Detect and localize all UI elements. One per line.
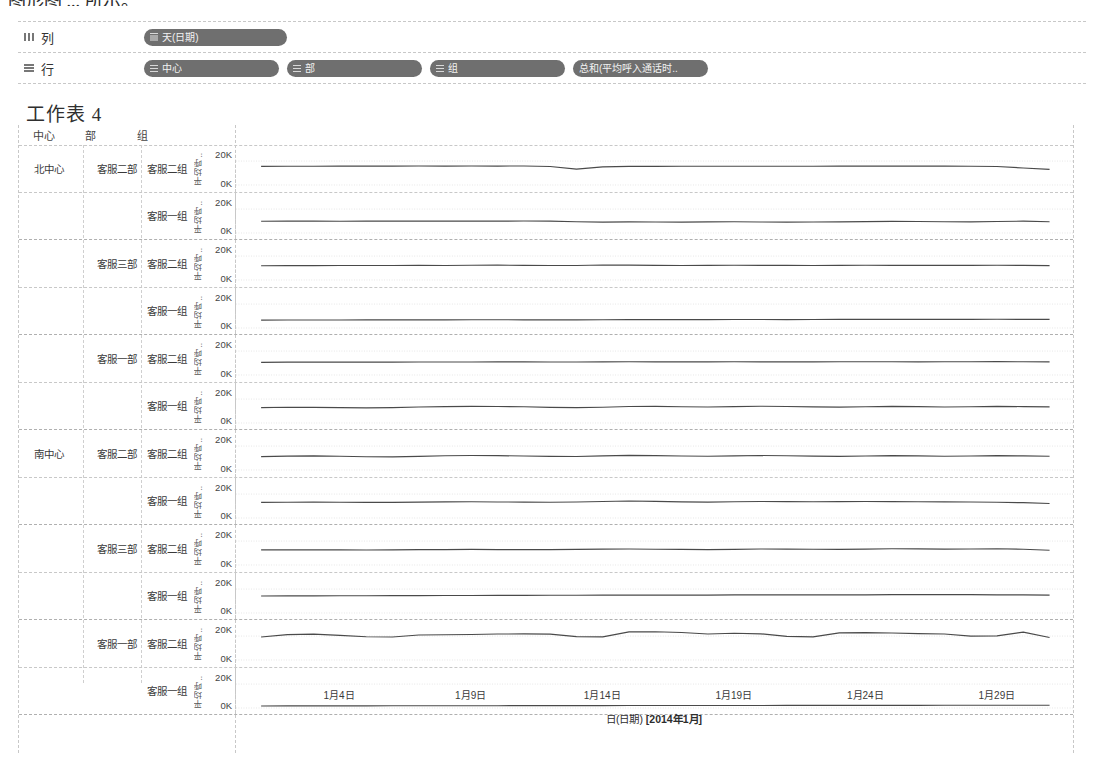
panel-dept-label: 客服一部 <box>83 335 141 382</box>
y-tick-label: 0K <box>220 368 232 379</box>
header-group: 组 <box>137 127 148 143</box>
panel-grid: 北中心客服二部客服二组平均呼..20K0K客服一组平均呼..20K0K客服三部客… <box>19 145 1073 715</box>
panel-dept-label <box>83 193 141 240</box>
y-tick-label: 0K <box>220 558 232 569</box>
panel-center-label: 北中心 <box>19 145 83 192</box>
panel-plot[interactable] <box>235 145 1073 192</box>
pill-measure-avg-call-duration[interactable]: 总和(平均呼入通话时.. <box>573 60 708 77</box>
panel-group-label: 客服一组 <box>141 573 191 620</box>
panel-group-label: 客服二组 <box>141 620 191 667</box>
panel-plot[interactable] <box>235 525 1073 572</box>
panel-center-label <box>19 620 83 667</box>
y-tick-label: 20K <box>215 672 232 683</box>
pill-group[interactable]: 组 <box>430 60 565 77</box>
y-tick-label: 0K <box>220 653 232 664</box>
panel-plot[interactable] <box>235 620 1073 667</box>
pill-center[interactable]: 中心 <box>144 60 279 77</box>
columns-shelf-label: 列 <box>18 28 144 47</box>
panel-dept-label: 客服三部 <box>83 525 141 572</box>
panel-dept-label: 客服一部 <box>83 620 141 667</box>
y-axis-title: 平均呼.. <box>192 288 206 335</box>
panel-row: 客服三部客服二组平均呼..20K0K <box>19 240 1073 288</box>
panel-row: 北中心客服二部客服二组平均呼..20K0K <box>19 145 1073 193</box>
panel-group-label: 客服二组 <box>141 240 191 287</box>
panel-y-axis: 平均呼..20K0K <box>191 573 235 620</box>
page-title: 工作表 4 <box>26 99 102 126</box>
panel-row: 南中心客服二部客服二组平均呼..20K0K <box>19 430 1073 478</box>
panel-row: 客服一组平均呼..20K0K <box>19 478 1073 526</box>
panel-y-axis: 平均呼..20K0K <box>191 430 235 477</box>
panel-center-label <box>19 573 83 620</box>
panel-plot[interactable] <box>235 573 1073 620</box>
panel-group-label: 客服二组 <box>141 525 191 572</box>
panel-dept-label <box>83 383 141 430</box>
dimension-icon <box>436 64 444 72</box>
pill-label: 组 <box>448 60 458 77</box>
panel-dept-label <box>83 573 141 620</box>
panel-dept-label: 客服二部 <box>83 145 141 192</box>
columns-grid-icon <box>24 32 35 42</box>
calendar-icon <box>150 33 158 41</box>
x-tick-label: 1月4日 <box>324 687 355 702</box>
y-axis-title: 平均呼.. <box>192 193 206 240</box>
panel-group-label: 客服二组 <box>141 335 191 382</box>
rows-grid-icon <box>24 63 35 73</box>
panel-y-axis: 平均呼..20K0K <box>191 193 235 240</box>
y-tick-label: 20K <box>215 197 232 208</box>
y-axis-title: 平均呼.. <box>192 240 206 287</box>
pill-dept[interactable]: 部 <box>287 60 422 77</box>
x-axis-title-main: 日(日期) <box>606 713 646 725</box>
panel-plot[interactable] <box>235 288 1073 335</box>
rows-shelf[interactable]: 行 中心 部 组 总和(平均呼入通话时.. <box>18 52 1086 84</box>
y-tick-label: 0K <box>220 178 232 189</box>
x-tick-label: 1月29日 <box>979 687 1016 702</box>
row-header-captions: 中心 部 组 <box>19 125 1073 146</box>
panel-group-label: 客服一组 <box>141 383 191 430</box>
columns-shelf[interactable]: 列 天(日期) <box>18 21 1086 53</box>
pill-label: 中心 <box>162 60 182 77</box>
y-tick-label: 20K <box>215 577 232 588</box>
panel-center-label <box>19 525 83 572</box>
panel-row: 客服三部客服二组平均呼..20K0K <box>19 525 1073 573</box>
panel-plot[interactable] <box>235 240 1073 287</box>
panel-row: 客服一组平均呼..20K0K <box>19 573 1073 621</box>
panel-group-label: 客服一组 <box>141 478 191 525</box>
panel-y-axis: 平均呼..20K0K <box>191 383 235 430</box>
cut-off-top-text: 图形图 ... 所示。 <box>8 0 308 6</box>
x-axis-title-bold: [2014年1月] <box>646 713 702 725</box>
y-axis-title: 平均呼.. <box>192 383 206 430</box>
y-tick-label: 20K <box>215 244 232 255</box>
panel-center-label: 南中心 <box>19 430 83 477</box>
y-tick-label: 20K <box>215 624 232 635</box>
y-tick-label: 0K <box>220 320 232 331</box>
panel-row: 客服一组平均呼..20K0K <box>19 288 1073 336</box>
pill-label: 部 <box>305 60 315 77</box>
panel-row: 客服一组平均呼..20K0K <box>19 383 1073 431</box>
panel-row: 客服一部客服二组平均呼..20K0K <box>19 335 1073 383</box>
panel-plot[interactable] <box>235 430 1073 477</box>
panel-plot[interactable] <box>235 478 1073 525</box>
panel-y-axis: 平均呼..20K0K <box>191 288 235 335</box>
y-tick-label: 20K <box>215 529 232 540</box>
panel-plot[interactable] <box>235 193 1073 240</box>
pill-day-date[interactable]: 天(日期) <box>144 29 287 46</box>
panel-y-axis: 平均呼..20K0K <box>191 335 235 382</box>
panel-y-axis: 平均呼..20K0K <box>191 240 235 287</box>
panel-plot[interactable] <box>235 383 1073 430</box>
dimension-icon <box>293 64 301 72</box>
panel-y-axis: 平均呼..20K0K <box>191 620 235 667</box>
y-tick-label: 20K <box>215 434 232 445</box>
panel-row: 客服一部客服二组平均呼..20K0K <box>19 620 1073 668</box>
y-tick-label: 20K <box>215 339 232 350</box>
panel-row: 客服一组平均呼..20K0K <box>19 193 1073 241</box>
y-tick-label: 20K <box>215 387 232 398</box>
x-tick-labels: 1月4日1月9日1月14日1月19日1月24日1月29日 <box>235 687 1073 705</box>
x-tick-label: 1月9日 <box>455 687 486 702</box>
panel-plot[interactable] <box>235 335 1073 382</box>
y-tick-label: 0K <box>220 510 232 521</box>
y-tick-label: 20K <box>215 482 232 493</box>
panel-center-label <box>19 240 83 287</box>
y-tick-label: 20K <box>215 149 232 160</box>
panel-dept-label <box>83 288 141 335</box>
shelf-area: 列 天(日期) 行 中心 部 组 总和(平均呼入通话时.. <box>18 22 1086 96</box>
